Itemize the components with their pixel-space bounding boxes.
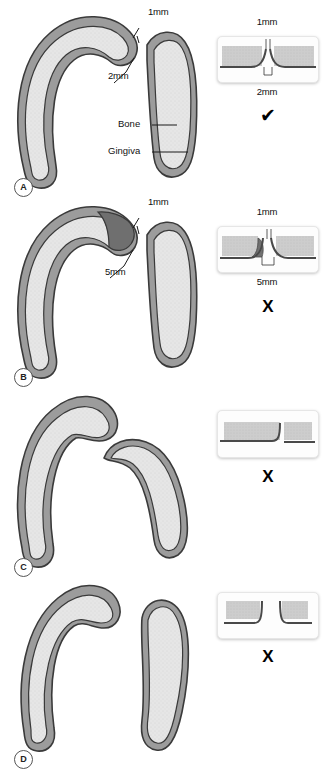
panel-d-main-illustration [6, 570, 211, 760]
panel-c-verdict-cross-icon: X [217, 468, 319, 485]
panel-c-inset-box [217, 410, 319, 458]
left-bone-arch [18, 17, 137, 188]
right-bone-arch [104, 440, 187, 558]
panel-a-inset-top-label: 1mm [217, 16, 317, 27]
right-bone-arch [142, 600, 189, 750]
panel-d-verdict-cross-icon: X [217, 648, 319, 665]
panel-b-main-illustration [6, 190, 211, 380]
panel-c: X C [0, 380, 327, 570]
figure-interdental-papilla: 1mm 2mm Bone Gingiva 1mm [0, 0, 327, 779]
panel-d: X D [0, 570, 327, 779]
panel-c-main-illustration [6, 380, 211, 570]
panel-a-bone-to-contact-label: 2mm [108, 70, 129, 81]
left-bone-arch [21, 586, 120, 752]
panel-a-verdict-check-icon: ✔ [217, 106, 319, 125]
panel-a-contact-gap-label: 1mm [148, 6, 169, 17]
panel-a-main-illustration [6, 0, 211, 190]
panel-a-gingiva-label: Gingiva [108, 145, 140, 156]
panel-b-inset-box [217, 226, 319, 273]
right-bone-arch [147, 32, 197, 177]
panel-a-inset-box [217, 36, 319, 83]
panel-b-contact-gap-label: 1mm [148, 196, 169, 207]
panel-b-bone-to-contact-label: 5mm [105, 266, 126, 277]
left-bone-arch [18, 207, 137, 378]
panel-b-inset-bottom-label: 5mm [217, 276, 317, 287]
panel-a-inset: 1mm [217, 36, 319, 83]
panel-b-inset-top-label: 1mm [217, 206, 317, 217]
panel-badge-d: D [14, 750, 33, 769]
panel-d-inset: X [217, 592, 319, 639]
left-bone-arch [18, 396, 118, 567]
panel-b: 1mm 5mm 1mm 5mm X [0, 190, 327, 380]
panel-b-verdict-cross-icon: X [217, 298, 319, 315]
panel-b-inset: 1mm 5mm X [217, 226, 319, 273]
panel-a-bone-label: Bone [118, 118, 140, 129]
panel-a: 1mm 2mm Bone Gingiva 1mm [0, 0, 327, 190]
panel-d-inset-box [217, 592, 319, 639]
panel-c-inset: X [217, 410, 319, 458]
right-bone-arch [147, 222, 197, 367]
panel-a-inset-bottom-label: 2mm [217, 86, 317, 97]
